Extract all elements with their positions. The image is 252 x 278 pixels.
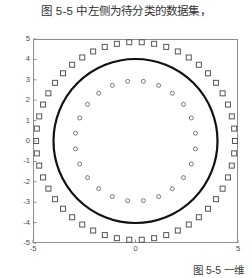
data-point-marker	[61, 71, 66, 76]
data-point-marker	[186, 222, 191, 227]
data-point-marker	[37, 163, 42, 168]
data-point-marker	[74, 131, 78, 135]
data-point-marker	[196, 215, 201, 220]
data-point-marker	[139, 40, 144, 45]
data-point-marker	[141, 199, 145, 203]
data-point-marker	[152, 236, 157, 241]
data-point-marker	[157, 195, 161, 199]
data-point-marker	[78, 116, 82, 120]
data-point-marker	[141, 79, 145, 83]
data-point-marker	[126, 199, 130, 203]
data-point-marker	[86, 176, 90, 180]
data-point-marker	[232, 151, 237, 156]
data-point-marker	[139, 237, 144, 242]
data-point-marker	[189, 116, 193, 120]
y-tick-label: -4	[8, 219, 30, 227]
data-point-marker	[102, 233, 107, 238]
data-point-marker	[164, 233, 169, 238]
data-point-marker	[186, 55, 191, 60]
data-point-marker	[181, 102, 185, 106]
data-point-marker	[114, 236, 119, 241]
x-tick-label: -5	[21, 245, 45, 253]
data-point-marker	[127, 237, 132, 242]
data-point-marker	[97, 91, 101, 95]
data-point-marker	[225, 102, 230, 107]
data-point-marker	[193, 131, 197, 135]
data-point-marker	[97, 187, 101, 191]
data-point-marker	[53, 197, 58, 202]
data-point-marker	[152, 41, 157, 46]
x-tick-label: 5	[226, 245, 250, 253]
data-point-marker	[196, 62, 201, 67]
y-tick-label: -1	[8, 157, 30, 165]
data-point-marker	[86, 102, 90, 106]
data-point-marker	[225, 175, 230, 180]
data-point-marker	[205, 71, 210, 76]
data-point-marker	[157, 83, 161, 87]
y-tick-label: 0	[8, 137, 30, 145]
data-point-marker	[220, 186, 225, 191]
outer-class-square-markers	[34, 40, 238, 242]
bottom-caption-text: 图 5-5 一维	[0, 262, 252, 277]
data-point-marker	[193, 147, 197, 151]
data-point-marker	[74, 147, 78, 151]
data-point-marker	[232, 126, 237, 131]
data-point-marker	[126, 79, 130, 83]
y-tick-label: 5	[8, 35, 30, 43]
data-point-marker	[164, 44, 169, 49]
data-point-marker	[80, 222, 85, 227]
figure-container: 543210-1-2-3-4-5 -505	[0, 26, 252, 252]
data-point-marker	[175, 49, 180, 54]
data-point-marker	[70, 62, 75, 67]
data-point-marker	[80, 55, 85, 60]
data-point-marker	[110, 195, 114, 199]
data-point-marker	[229, 114, 234, 119]
data-point-marker	[213, 197, 218, 202]
data-point-marker	[61, 206, 66, 211]
data-point-marker	[34, 126, 39, 131]
data-point-marker	[189, 162, 193, 166]
data-point-marker	[110, 83, 114, 87]
data-point-marker	[46, 186, 51, 191]
plot-canvas	[33, 39, 238, 243]
data-point-marker	[41, 102, 46, 107]
data-point-marker	[114, 41, 119, 46]
decision-boundary-layer	[54, 59, 218, 223]
data-point-marker	[127, 40, 132, 45]
data-point-marker	[41, 175, 46, 180]
top-caption-text: 图 5-5 中左侧为待分类的数据集，	[0, 2, 252, 18]
data-point-marker	[170, 91, 174, 95]
data-point-marker	[175, 228, 180, 233]
data-point-marker	[213, 80, 218, 85]
data-point-marker	[46, 91, 51, 96]
axis-tick-marks	[33, 39, 238, 243]
data-point-marker	[220, 91, 225, 96]
data-point-marker	[37, 114, 42, 119]
data-point-marker	[34, 151, 39, 156]
data-point-marker	[91, 49, 96, 54]
inner-class-circle-markers	[74, 79, 198, 202]
y-tick-label: 2	[8, 96, 30, 104]
y-tick-label: -2	[8, 178, 30, 186]
y-tick-label: 1	[8, 117, 30, 125]
data-point-marker	[53, 80, 58, 85]
data-point-marker	[232, 139, 237, 144]
y-tick-label: 4	[8, 55, 30, 63]
x-tick-label: 0	[124, 245, 148, 253]
y-tick-label: 3	[8, 76, 30, 84]
data-point-marker	[181, 176, 185, 180]
data-point-marker	[78, 162, 82, 166]
decision-boundary-circle	[54, 59, 218, 223]
data-point-marker	[229, 163, 234, 168]
data-point-marker	[70, 215, 75, 220]
y-tick-label: -3	[8, 198, 30, 206]
data-point-marker	[170, 187, 174, 191]
data-point-marker	[205, 206, 210, 211]
data-point-marker	[91, 228, 96, 233]
data-point-marker	[102, 44, 107, 49]
